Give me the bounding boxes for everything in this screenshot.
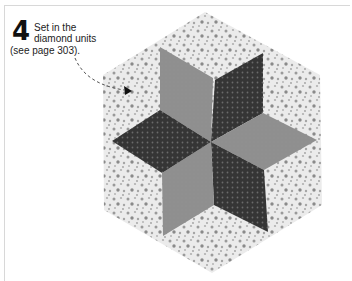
quilt-block-illustration [0,0,352,279]
